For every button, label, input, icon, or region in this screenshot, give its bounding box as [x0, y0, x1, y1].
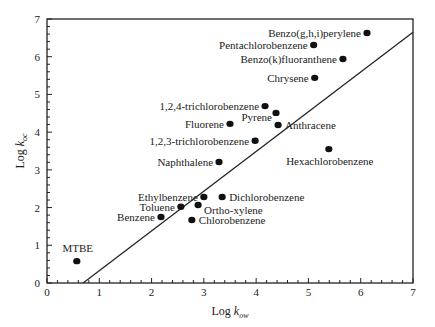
data-point: Benzo(k)fluoranthene [240, 53, 346, 66]
point-label: Benzo(g,h,i)perylene [268, 27, 361, 40]
x-tick-label: 4 [253, 286, 259, 298]
point-label: Hexachlorobenzene [286, 155, 373, 167]
point-marker [310, 42, 317, 48]
data-point: Pyrene [241, 110, 279, 123]
data-points: Benzo(g,h,i)perylenePentachlorobenzeneBe… [63, 27, 374, 264]
data-point: Fluorene [185, 118, 234, 130]
point-label: MTBE [63, 242, 94, 254]
x-axis-label: Log kow [211, 304, 249, 320]
data-point: Chlorobenzene [188, 214, 265, 226]
point-label: Dichlorobenzene [229, 191, 304, 203]
x-tick-label: 3 [201, 286, 207, 298]
point-label: Benzene [117, 211, 155, 223]
point-label: Fluorene [185, 118, 224, 130]
data-point: Naphthalene [157, 156, 222, 168]
point-marker [311, 75, 318, 81]
point-marker [261, 103, 268, 109]
data-point: Anthracene [275, 119, 336, 131]
data-point: 1,2,3-trichlorobenzene [150, 135, 259, 147]
data-point: Chrysene [267, 72, 318, 84]
point-marker [188, 217, 195, 223]
scatter-chart: 0123456701234567 Benzo(g,h,i)perylenePen… [0, 0, 435, 327]
data-point: Hexachlorobenzene [286, 146, 373, 167]
x-tick-label: 6 [358, 286, 364, 298]
point-label: Chlorobenzene [199, 214, 266, 226]
data-point: MTBE [63, 242, 94, 264]
y-tick-label: 0 [35, 277, 41, 289]
point-marker [177, 204, 184, 210]
point-marker [215, 159, 222, 165]
x-tick-label: 0 [44, 286, 50, 298]
point-marker [363, 30, 370, 36]
y-tick-label: 2 [35, 202, 41, 214]
point-marker [73, 258, 80, 264]
point-label: Pentachlorobenzene [219, 39, 308, 51]
y-tick-label: 6 [35, 51, 41, 63]
y-tick-label: 4 [35, 126, 41, 138]
data-point: Pentachlorobenzene [219, 39, 317, 51]
point-marker [157, 214, 164, 220]
x-tick-label: 5 [306, 286, 312, 298]
y-tick-label: 5 [35, 88, 41, 100]
y-tick-label: 3 [35, 164, 41, 176]
point-label: Benzo(k)fluoranthene [240, 53, 337, 66]
point-marker [200, 194, 207, 200]
point-marker [275, 122, 282, 128]
point-label: Pyrene [241, 111, 272, 123]
x-tick-label: 2 [149, 286, 155, 298]
y-tick-label: 1 [35, 239, 41, 251]
y-tick-label: 7 [35, 13, 41, 25]
point-marker [272, 110, 279, 116]
point-marker [195, 202, 202, 208]
point-marker [325, 146, 332, 152]
point-label: Chrysene [267, 72, 309, 84]
point-marker [219, 194, 226, 200]
point-marker [226, 121, 233, 127]
x-tick-label: 7 [410, 286, 416, 298]
data-point: Benzo(g,h,i)perylene [268, 27, 370, 40]
data-point: Dichlorobenzene [219, 191, 305, 203]
point-label: Anthracene [285, 119, 336, 131]
point-marker [251, 138, 258, 144]
point-marker [339, 56, 346, 62]
point-label: Naphthalene [157, 156, 213, 168]
plot-frame [47, 19, 413, 283]
y-axis-label: Log koc [13, 133, 29, 169]
point-label: 1,2,3-trichlorobenzene [150, 135, 250, 147]
x-tick-label: 1 [97, 286, 103, 298]
